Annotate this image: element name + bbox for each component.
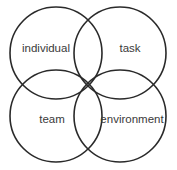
label-task: task	[119, 42, 140, 54]
label-environment: environment	[100, 113, 164, 125]
label-individual: individual	[22, 42, 70, 54]
label-team: team	[39, 113, 65, 125]
venn-diagram: individual task team environment	[0, 0, 177, 170]
